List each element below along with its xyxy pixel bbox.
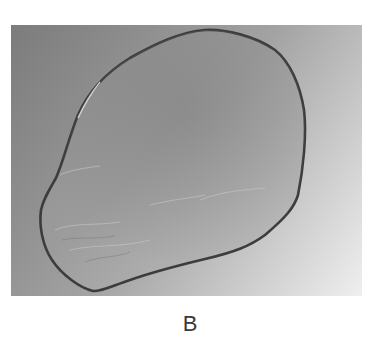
figure-panel: B [0,0,380,339]
specimen-photo [11,25,362,296]
film-shape-icon [11,25,362,296]
panel-label: B [0,311,380,337]
